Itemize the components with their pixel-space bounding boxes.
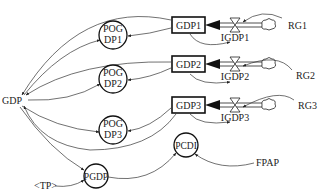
variable-fpap[interactable]: FPAP: [256, 157, 279, 168]
aux-pogdp1[interactable]: POG DP1: [99, 21, 127, 49]
flow-arrow-1: [205, 20, 220, 30]
cloud-icon-2: [262, 58, 276, 70]
flow-igdp2-label: IGDP2: [221, 71, 249, 82]
aux-pgdp[interactable]: PGDP: [84, 164, 108, 188]
aux-pogdp3[interactable]: POG DP3: [99, 116, 127, 144]
valve-icon-1: [230, 18, 240, 32]
link-gdp-pogdp2: [28, 84, 100, 100]
flow-pipe-3: [214, 103, 262, 107]
stock-gdp3-label: GDP3: [176, 100, 201, 111]
rate-rg1-label: RG1: [288, 20, 307, 31]
aux-pogdp1-line1: POG: [103, 23, 123, 34]
cloud-icon-1: [262, 19, 276, 31]
flow-pipe-2: [214, 62, 262, 66]
stock-gdp3[interactable]: GDP3: [172, 97, 205, 113]
link-pgdp-pcdi: [108, 153, 176, 179]
aux-pogdp2-line1: POG: [103, 67, 123, 78]
valve-icon-2: [230, 57, 240, 71]
cloud-icon-3: [262, 99, 276, 111]
flow-pipe-1: [214, 23, 262, 27]
variable-tp[interactable]: <TP>: [34, 180, 57, 191]
aux-pogdp1-line2: DP1: [104, 34, 122, 45]
stock-gdp2[interactable]: GDP2: [172, 56, 205, 72]
rate-rg3-label: RG3: [298, 100, 317, 111]
aux-pogdp3-line1: POG: [103, 118, 123, 129]
stock-gdp1-label: GDP1: [176, 20, 201, 31]
stock-flow-diagram: GDP1 GDP2 GDP3 IGDP1 IGDP2 IGDP3 RG1 RG2…: [0, 0, 320, 195]
aux-pogdp2[interactable]: POG DP2: [99, 65, 127, 93]
link-gdp1-gdp: [22, 17, 171, 95]
link-gdp-pogdp1: [24, 40, 100, 95]
link-gdp2-pogdp2: [128, 68, 171, 80]
valve-icon-3: [230, 98, 240, 112]
flow-igdp3-label: IGDP3: [221, 112, 249, 123]
link-gdp1-pogdp1: [128, 28, 171, 36]
flow-igdp1-label: IGDP1: [221, 32, 249, 43]
link-gdp3-pogdp3: [128, 108, 171, 131]
stock-gdp1[interactable]: GDP1: [172, 17, 205, 33]
link-tp-pgdp: [55, 180, 84, 186]
link-fpap-pcdi: [195, 154, 254, 166]
aux-pgdp-label: PGDP: [84, 172, 108, 182]
aux-pcdi-label: PCDI: [175, 141, 197, 151]
stock-gdp2-label: GDP2: [176, 59, 201, 70]
link-gdp-pogdp3: [22, 106, 99, 132]
flow-arrow-3: [205, 100, 220, 110]
rate-rg2-label: RG2: [296, 70, 315, 81]
aux-pogdp3-line2: DP3: [104, 129, 122, 140]
flow-arrow-2: [205, 59, 220, 69]
variable-gdp[interactable]: GDP: [2, 95, 22, 106]
aux-pogdp2-line2: DP2: [104, 78, 122, 89]
aux-pcdi[interactable]: PCDI: [174, 133, 198, 157]
